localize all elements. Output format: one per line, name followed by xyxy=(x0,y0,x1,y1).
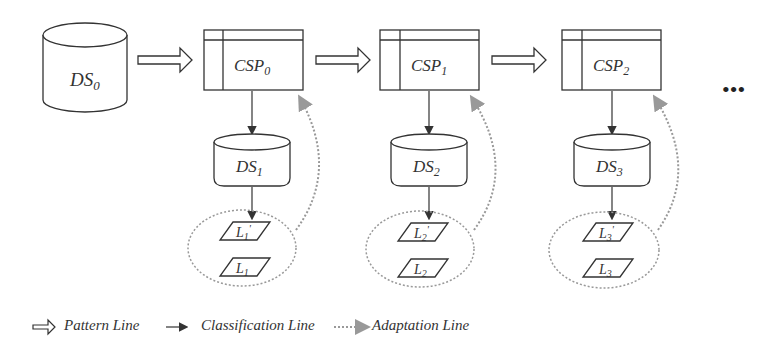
legend-pattern-line: Pattern Line xyxy=(64,317,139,334)
adaptation-arrow xyxy=(296,98,319,230)
datastore-ds0: DS0 xyxy=(43,23,127,112)
diagram-canvas: DS0 CSP0 DS1 L1' L1 CSP1 DS2 xyxy=(0,0,781,364)
pattern-arrow xyxy=(316,48,370,72)
adaptation-arrow xyxy=(472,98,496,230)
legend-adaptation-line: Adaptation Line xyxy=(372,317,469,334)
stage-1: CSP1 DS2 L2' L2 xyxy=(366,30,496,287)
pattern-arrow xyxy=(492,48,546,72)
adaptation-arrow xyxy=(655,98,678,230)
legend-classification-line: Classification Line xyxy=(201,317,315,334)
stage-2: CSP2 DS3 L3' L3 xyxy=(549,30,678,288)
ellipsis: ••• xyxy=(722,77,745,102)
pattern-arrow xyxy=(138,48,192,72)
stage-0: CSP0 DS1 L1' L1 xyxy=(188,30,319,286)
legend: Pattern Line Classification Line Adaptat… xyxy=(0,313,781,343)
